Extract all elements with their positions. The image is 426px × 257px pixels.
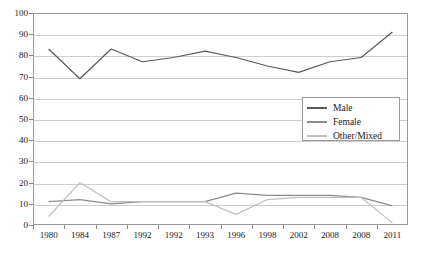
legend-label-male: Male — [333, 103, 353, 113]
y-axis-tick-label: 90 — [0, 30, 28, 39]
y-axis-tick-label: 100 — [0, 9, 28, 18]
line-chart: 0102030405060708090100 19801984198719921… — [0, 0, 426, 257]
legend-item-female: Female — [307, 115, 399, 128]
legend-swatch-male — [307, 107, 327, 109]
legend-swatch-female — [307, 121, 327, 123]
legend-label-female: Female — [333, 117, 361, 127]
x-axis-tick-label: 1996 — [221, 231, 252, 240]
x-axis-tick-label: 1987 — [96, 231, 127, 240]
y-axis-tick-label: 50 — [0, 115, 28, 124]
legend-swatch-other-mixed — [307, 135, 327, 137]
y-axis-tick-label: 10 — [0, 200, 28, 209]
x-axis-tick-mark — [127, 225, 128, 229]
y-axis-tick-label: 0 — [0, 221, 28, 230]
x-axis-tick-label: 2002 — [283, 231, 314, 240]
x-axis-tick-label: 1993 — [189, 231, 220, 240]
x-axis-tick-mark — [189, 225, 190, 229]
legend-label-other-mixed: Other/Mixed — [333, 131, 382, 141]
x-axis-tick-label: 1992 — [158, 231, 189, 240]
y-axis-tick-label: 30 — [0, 157, 28, 166]
y-axis-tick-label: 60 — [0, 94, 28, 103]
x-axis-tick-mark — [64, 225, 65, 229]
x-axis-tick-mark — [158, 225, 159, 229]
y-axis-tick-label: 40 — [0, 136, 28, 145]
legend-item-other-mixed: Other/Mixed — [307, 129, 399, 142]
legend-item-male: Male — [307, 101, 399, 114]
y-axis-tick-label: 20 — [0, 179, 28, 188]
legend: Male Female Other/Mixed — [302, 97, 400, 141]
x-axis-tick-label: 2011 — [377, 231, 408, 240]
x-axis-tick-label: 1998 — [252, 231, 283, 240]
series-line-male — [49, 32, 393, 79]
x-axis-tick-mark — [96, 225, 97, 229]
x-axis-tick-label: 1992 — [127, 231, 158, 240]
x-axis-tick-mark — [252, 225, 253, 229]
x-axis-tick-mark — [346, 225, 347, 229]
x-axis-tick-mark — [221, 225, 222, 229]
x-axis-tick-mark — [314, 225, 315, 229]
x-axis-tick-mark — [33, 225, 34, 229]
y-axis-tick-label: 80 — [0, 51, 28, 60]
x-axis-tick-label: 1984 — [64, 231, 95, 240]
x-axis-tick-label: 1980 — [33, 231, 64, 240]
x-axis-tick-mark — [377, 225, 378, 229]
y-axis-tick-label: 70 — [0, 73, 28, 82]
x-axis-tick-label: 2008 — [346, 231, 377, 240]
x-axis-tick-mark — [283, 225, 284, 229]
x-axis-tick-label: 2008 — [314, 231, 345, 240]
